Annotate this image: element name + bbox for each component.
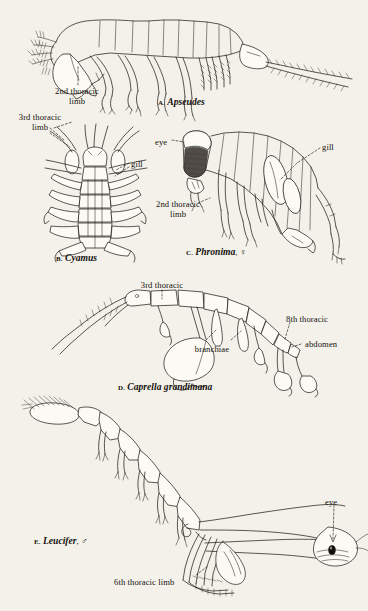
label-branchiae-caprella: branchiae [195,345,229,355]
figure-cyamus [44,124,147,262]
caption-phronima: C. Phronima, ♀ [186,246,247,257]
caption-sex-symbol: ♂ [81,536,88,546]
leader-eye-c [172,140,184,142]
caption-letter: C. [186,249,193,257]
label-line2: limb [69,96,85,106]
label-3rd-thoracic-limb-apseudes: 3rd thoracic limb [19,113,61,132]
label-abdomen-caprella: abdomen [305,340,337,350]
figure-apseudes [28,20,352,128]
caption-apseudes: A. Apseudes [158,96,205,107]
label-line1: eye [325,497,337,507]
leucifer-eye-spot [329,545,336,554]
caption-genus: Leucifer [43,535,77,546]
caption-letter: E. [34,538,41,546]
label-gill-cyamus: gill [131,160,143,170]
label-8th-thoracic-caprella: 8th thoracic [286,315,328,325]
caption-genus: Phronima [195,246,235,257]
label-line2: limb [170,209,186,219]
label-3rd-thoracic-caprella: 3rd thoracic [141,281,183,291]
caption-caprella: D. Caprella grandimana [118,381,212,392]
figure-leucifer [22,396,368,596]
leader-gill-c [297,148,320,163]
caption-genus: Cyamus [65,252,97,263]
label-6th-thoracic-limb-leucifer: 6th thoracic limb [114,578,174,588]
figure-phronima [172,131,345,264]
label-line1: 6th thoracic limb [114,577,174,587]
caption-sex-symbol: ♀ [240,247,247,257]
caption-genus: Caprella grandimana [127,381,212,392]
label-line1: gill [322,142,334,152]
caption-letter: A. [158,99,165,107]
caption-genus: Apseudes [167,96,204,107]
label-eye-leucifer: eye [325,498,337,508]
caption-letter: D. [118,384,125,392]
label-line1: gill [131,159,143,169]
label-line1: eye [155,137,167,147]
label-eye-phronima: eye [155,138,167,148]
label-line1: 2nd thoracic [55,86,99,96]
caption-letter: B. [56,255,63,263]
leader-3rd-thoracic-limb-b2 [50,133,70,147]
label-2nd-thoracic-limb-phronima: 2nd thoracic limb [156,200,200,219]
label-line1: 8th thoracic [286,314,328,324]
caption-comma: , [235,248,237,257]
label-line2: limb [32,122,48,132]
leader-6th-thoracic-limb-e [196,566,208,575]
caption-leucifer: E. Leucifer, ♂ [34,535,88,546]
label-gill-phronima: gill [322,143,334,153]
label-line1: 3rd thoracic [141,280,183,290]
caption-comma: , [77,537,79,546]
label-line1: branchiae [195,344,229,354]
label-line1: 3rd thoracic [19,112,61,122]
label-2nd-thoracic-limb-apseudes: 2nd thoracic limb [55,87,99,106]
label-line1: abdomen [305,339,337,349]
illustration-plate: 2nd thoracic limb 3rd thoracic limb A. A… [0,0,368,611]
label-line1: 2nd thoracic [156,199,200,209]
caption-cyamus: B. Cyamus [56,252,97,263]
